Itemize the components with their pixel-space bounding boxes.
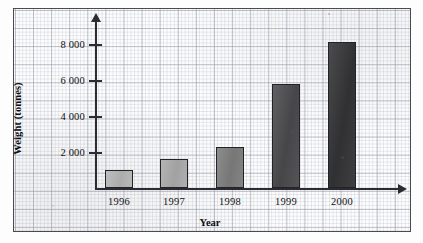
y-tick-label-4000: 4 000 <box>33 111 85 122</box>
x-tick-label-1996: 1996 <box>97 196 141 207</box>
x-axis-title: Year <box>180 217 240 228</box>
y-tick-mark-4000 <box>89 116 102 118</box>
bar-speck <box>291 131 293 134</box>
paper-speck <box>52 205 54 207</box>
bar-sheen <box>329 43 355 187</box>
y-tick-label-4000-wrap: 4 000 <box>33 111 85 123</box>
bar-sheen <box>217 148 243 187</box>
x-tick-label-1997: 1997 <box>152 196 196 207</box>
y-tick-label-8000-wrap: 8 000 <box>33 39 85 51</box>
bar-sheen <box>161 160 187 187</box>
x-axis-line <box>95 188 401 190</box>
x-tick-label-2000: 2000 <box>320 196 364 207</box>
y-tick-label-6000: 6 000 <box>33 75 85 86</box>
chart-screenshot: 8 000 6 000 4 000 2 000 Weight (tonnes) … <box>0 0 423 243</box>
x-tick-label-1999: 1999 <box>264 196 308 207</box>
y-axis-title: Weight (tonnes) <box>12 71 23 167</box>
bar-2000[interactable] <box>328 42 356 188</box>
y-tick-label-2000: 2 000 <box>33 147 85 158</box>
y-tick-mark-8000 <box>89 44 102 46</box>
x-axis-arrowhead-icon <box>398 184 407 194</box>
y-axis-arrowhead-icon <box>91 13 101 22</box>
y-tick-label-8000: 8 000 <box>33 39 85 50</box>
x-tick-label-1998: 1998 <box>208 196 252 207</box>
y-tick-label-6000-wrap: 6 000 <box>33 75 85 87</box>
bar-chart-plot-area: 8 000 6 000 4 000 2 000 Weight (tonnes) … <box>0 0 423 243</box>
bar-1996[interactable] <box>105 170 133 188</box>
bar-speck <box>341 156 344 159</box>
paper-speck <box>328 13 330 15</box>
bar-1997[interactable] <box>160 159 188 188</box>
y-tick-label-2000-wrap: 2 000 <box>33 147 85 159</box>
bar-1999[interactable] <box>272 84 300 188</box>
bar-sheen <box>273 85 299 187</box>
y-tick-mark-6000 <box>89 80 102 82</box>
bar-1998[interactable] <box>216 147 244 188</box>
bar-sheen <box>106 171 132 187</box>
y-tick-mark-2000 <box>89 152 102 154</box>
